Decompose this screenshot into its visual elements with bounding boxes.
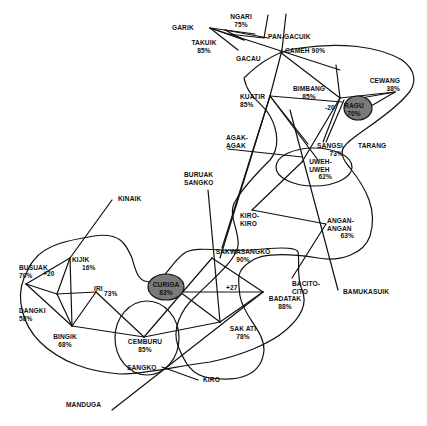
node-takuik: TAKUIK85%	[191, 39, 216, 54]
node-bacitocito: BACITO- CITO	[292, 280, 320, 295]
node-kijik: KIJIK16%	[72, 256, 96, 271]
node-bingik: BINGIK68%	[53, 333, 77, 348]
edge	[57, 294, 72, 326]
edge	[220, 96, 270, 258]
node-ragu: RAGU70%	[344, 102, 364, 117]
node-sangsi: SANGSI73%	[317, 142, 343, 157]
edge-label-plus27: +27	[226, 284, 238, 292]
node-kirokiro: KIRO- KIRO	[240, 212, 259, 227]
node-uweh: UWEH- UWEH62%	[309, 158, 332, 181]
node-cewang: CEWANG38%	[370, 77, 400, 92]
edge	[252, 162, 302, 210]
edge	[290, 110, 338, 290]
node-kiro: KIRO	[203, 376, 220, 384]
node-kuatir: KUATIR85%	[240, 93, 265, 108]
node-cemburu: CEMBURU85%	[128, 338, 162, 353]
node-iri: IRI	[94, 285, 103, 293]
node-gacau: GACAU	[236, 55, 261, 63]
node-garik: GARIK	[172, 24, 194, 32]
node-bimbang: BIMBANG85%	[293, 85, 325, 100]
edge	[70, 200, 112, 258]
node-bamukasuik: BAMUKASUIK	[343, 288, 389, 296]
node-buruak: BURUAK SANGKO	[184, 171, 214, 186]
edge	[72, 292, 96, 326]
node-cameh: CAMEH 90%	[285, 47, 325, 55]
edge-label-plus20: +20	[43, 270, 55, 278]
node-kinaik: KINAIK	[118, 195, 141, 203]
node-dangki: DANGKI58%	[19, 307, 46, 322]
network-diagram	[0, 0, 427, 426]
node-manduga: MANDUGA	[66, 401, 101, 409]
node-curiga: CURIGA83%	[153, 281, 180, 296]
node-badatak: BADATAK88%	[269, 295, 301, 310]
edge	[228, 149, 302, 157]
edge	[252, 210, 326, 224]
node-ngari: NGARI75%	[230, 13, 252, 28]
edge	[270, 96, 308, 144]
node-sakwasangko: SAKWASANGKO90%	[216, 248, 271, 263]
edge-label-minus20: -20	[325, 104, 335, 112]
node-iri-pct: 73%	[104, 290, 118, 298]
node-agakagak: AGAK- AGAK	[226, 134, 248, 149]
edge	[57, 292, 96, 294]
node-pangacuik: PAN-GACUIK	[268, 33, 311, 41]
edge	[162, 367, 198, 380]
node-sakati: SAK ATI78%	[230, 325, 256, 340]
edge	[57, 258, 70, 294]
node-sangko: SANGKO	[127, 364, 157, 372]
node-tarang: TARANG	[358, 142, 386, 150]
node-angan: ANGAN- ANGAN63%	[327, 217, 354, 240]
edge	[282, 14, 286, 50]
